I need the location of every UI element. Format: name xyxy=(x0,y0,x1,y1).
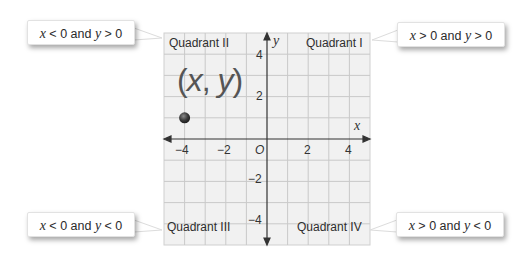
origin-label: O xyxy=(255,143,264,157)
quadrant-ii-label: Quadrant II xyxy=(169,36,229,50)
x-tick-4: 4 xyxy=(345,143,352,157)
callout-quadrant-iv-condition: x > 0 and y < 0 xyxy=(396,212,504,237)
x-axis-label: x xyxy=(354,118,360,134)
x-tick-neg2: −2 xyxy=(217,143,231,157)
condition-text: < 0 xyxy=(101,219,122,233)
y-tick-2: 2 xyxy=(256,89,263,103)
callout-quadrant-ii-condition: x < 0 and y > 0 xyxy=(27,20,135,45)
paren-open: ( xyxy=(177,62,187,98)
condition-text: > 0 xyxy=(101,27,122,41)
paren-close: ) xyxy=(232,62,242,98)
y-tick-neg2: −2 xyxy=(248,172,262,186)
y-axis-label: y xyxy=(273,33,279,49)
y-tick-4: 4 xyxy=(256,48,263,62)
condition-text: < 0 and xyxy=(46,27,95,41)
x-tick-2: 2 xyxy=(304,143,311,157)
var-y: y xyxy=(217,62,232,98)
quadrant-iii-label: Quadrant III xyxy=(167,220,230,234)
condition-text: > 0 xyxy=(471,29,492,43)
y-tick-neg4: −4 xyxy=(248,213,262,227)
point-label: (x, y) xyxy=(177,62,242,99)
condition-text: < 0 xyxy=(470,219,491,233)
condition-text: < 0 and xyxy=(46,219,95,233)
quadrant-i-label: Quadrant I xyxy=(306,36,363,50)
condition-text: > 0 and xyxy=(416,29,465,43)
x-tick-neg4: −4 xyxy=(175,143,189,157)
callout-quadrant-i-condition: x > 0 and y > 0 xyxy=(397,22,505,47)
var-x: x xyxy=(187,62,202,98)
condition-text: > 0 and xyxy=(415,219,464,233)
quadrant-iv-label: Quadrant IV xyxy=(297,220,362,234)
comma: , xyxy=(202,62,218,98)
callout-quadrant-iii-condition: x < 0 and y < 0 xyxy=(27,212,135,237)
